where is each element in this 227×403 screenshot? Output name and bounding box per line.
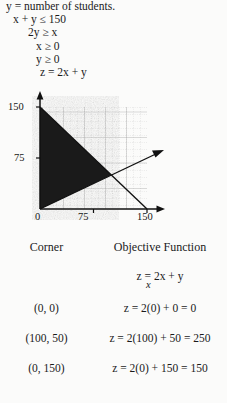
table-row: (100, 50) z = 2(100) + 50 = 250 xyxy=(0,332,227,362)
constraint-4: y ≥ 0 xyxy=(36,53,227,66)
y-tick-75: 75 xyxy=(14,152,25,163)
y-axis-label: y xyxy=(44,174,49,185)
objective-value: z = 2(100) + 50 = 250 xyxy=(93,332,227,344)
y-tick-150: 150 xyxy=(8,101,24,112)
graph-svg xyxy=(0,86,185,226)
constraint-1: x + y ≤ 150 xyxy=(13,13,227,26)
x-axis-arrowhead xyxy=(157,206,166,213)
table-header-row: Corner Objective Function xyxy=(0,240,227,270)
corner-objective-table: Corner Objective Function z = 2x + y (0,… xyxy=(0,240,227,392)
table-header-corner: Corner xyxy=(0,240,93,255)
x-tick-0: 0 xyxy=(35,211,40,222)
worksheet-page: y = number of students. x + y ≤ 150 2y ≥… xyxy=(0,0,227,403)
corner-point: (0, 0) xyxy=(0,302,93,314)
objective-definition: z = 2x + y xyxy=(40,66,227,79)
objective-value: z = 2(0) + 150 = 150 xyxy=(93,362,227,374)
corner-point: (100, 50) xyxy=(0,332,93,344)
table-header-objective: Objective Function xyxy=(93,240,227,255)
x-tick-150: 150 xyxy=(137,211,153,222)
y-axis-arrowhead xyxy=(37,91,44,100)
constraint-line-arrowhead xyxy=(152,150,164,158)
variable-definition: y = number of students. xyxy=(6,0,227,13)
corner-point: (0, 150) xyxy=(0,362,93,374)
objective-value: z = 2(0) + 0 = 0 xyxy=(93,302,227,314)
x-tick-75: 75 xyxy=(78,211,89,222)
problem-statement: y = number of students. x + y ≤ 150 2y ≥… xyxy=(0,0,227,79)
constraint-3: x ≥ 0 xyxy=(36,40,227,53)
feasible-region-graph: y x xyxy=(0,86,185,226)
table-row: (0, 0) z = 2(0) + 0 = 0 xyxy=(0,302,227,332)
table-formula-row: z = 2x + y xyxy=(0,270,227,302)
table-row: (0, 150) z = 2(0) + 150 = 150 xyxy=(0,362,227,392)
constraint-2: 2y ≥ x xyxy=(28,26,227,39)
objective-formula: z = 2x + y xyxy=(93,270,227,282)
